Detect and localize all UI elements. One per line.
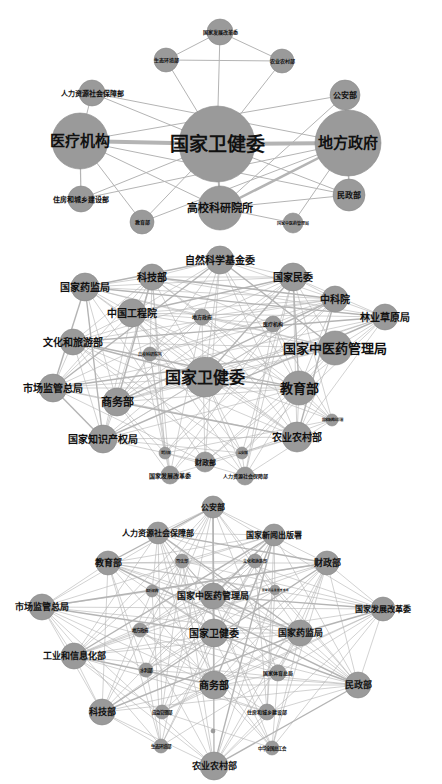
- node-cas[interactable]: 中科院: [320, 286, 350, 312]
- node-dot[interactable]: [211, 729, 215, 733]
- network-graph-1: 国家卫健委医疗机构地方政府高校科研院所人力资源社会保障部国家发展改革委生态环境部…: [0, 0, 442, 240]
- node-label: 国家卫健委: [189, 627, 240, 639]
- node-hrss[interactable]: 人力资源社会保障部: [122, 522, 194, 544]
- edge: [42, 607, 300, 633]
- node-mof[interactable]: 财政部: [194, 452, 216, 472]
- node-mee[interactable]: 生态环境部: [154, 48, 179, 72]
- node-label: 中国工程院: [107, 307, 157, 319]
- node-mps[interactable]: 公安部: [201, 496, 225, 518]
- node-label: 公安部: [333, 90, 357, 100]
- node-label: 地方政府: [192, 314, 212, 321]
- node-label: 高校科研院所: [187, 201, 253, 215]
- node-label: 商务部: [199, 679, 229, 691]
- node-label: 国家药监局: [60, 281, 110, 293]
- node-mps[interactable]: 公安部: [330, 80, 360, 110]
- node-moj[interactable]: 司法部: [175, 554, 189, 568]
- node-label: 国家新闻出版署: [322, 417, 344, 422]
- network-graph-2: 国家卫健委自然科学基金委科技部国家民委国家药监局中科院中国工程院林业草原局地方政…: [0, 235, 442, 490]
- node-label: 住房和城乡建设部: [53, 195, 109, 204]
- node-label: 教育部: [94, 557, 122, 568]
- node-label: 市场监管总局: [23, 382, 83, 394]
- node-circle[interactable]: [211, 729, 215, 733]
- node-nrta[interactable]: 国家新闻出版署: [322, 414, 344, 426]
- node-mps[interactable]: 公安部: [236, 447, 248, 459]
- node-cnipa[interactable]: 国家知识产权局: [68, 425, 138, 453]
- node-moa[interactable]: 农业农村部: [191, 752, 237, 780]
- network-svg: 公安部人力资源社会保障部国家新闻出版署教育部财政部司法部文化和旅游部医疗机构国家…: [0, 490, 442, 784]
- node-label: 生态环境部: [154, 57, 179, 64]
- node-mca[interactable]: 民政部: [333, 179, 365, 211]
- node-label: 民政部: [345, 679, 372, 690]
- node-hrss[interactable]: 人力资源社会保障部: [222, 467, 268, 485]
- node-most[interactable]: 科技部: [89, 699, 116, 725]
- network-svg: 国家卫健委医疗机构地方政府高校科研院所人力资源社会保障部国家发展改革委生态环境部…: [0, 0, 442, 240]
- node-label: 中华全国总工会: [258, 745, 287, 752]
- node-forest[interactable]: 林业草原局: [360, 304, 410, 330]
- edge: [102, 673, 278, 712]
- node-acftu[interactable]: 中华全国总工会: [258, 741, 287, 755]
- node-label: 教育部: [279, 381, 319, 396]
- node-mofcom[interactable]: 商务部: [199, 671, 229, 699]
- node-label: 文化和旅游部: [243, 558, 267, 564]
- node-mof[interactable]: 财政部: [313, 551, 341, 575]
- node-label: 科技部: [89, 706, 116, 717]
- node-label: 农业农村部: [271, 431, 322, 443]
- node-moe[interactable]: 教育部: [94, 551, 122, 575]
- node-label: 国家卫健委: [170, 133, 265, 155]
- node-label: 国家中医药管理局: [277, 220, 309, 226]
- node-label: 文化和旅游部: [43, 336, 103, 348]
- node-med[interactable]: 医疗机构: [263, 316, 283, 332]
- network-graph-3: 公安部人力资源社会保障部国家新闻出版署教育部财政部司法部文化和旅游部医疗机构国家…: [0, 490, 442, 784]
- node-label: 教育部: [134, 219, 150, 226]
- edge: [102, 712, 214, 766]
- node-label: 国家发展改革委: [149, 472, 191, 480]
- node-moe[interactable]: 教育部: [130, 210, 154, 234]
- node-label: 人力资源社会保障部: [122, 528, 194, 538]
- node-moe[interactable]: 教育部: [279, 371, 319, 405]
- edge: [166, 60, 282, 61]
- node-label: 国家发展改革委: [203, 29, 238, 36]
- node-label: 医疗机构: [263, 321, 283, 328]
- node-most[interactable]: 科技部: [137, 264, 167, 290]
- node-mwr[interactable]: 水利部: [139, 663, 153, 677]
- node-label: 国家知识产权局: [68, 433, 138, 445]
- node-label: 地方政府: [318, 134, 378, 152]
- edge: [102, 563, 108, 712]
- node-ndrc[interactable]: 国家发展改革委: [355, 597, 412, 621]
- node-ndrc[interactable]: 国家发展改革委: [203, 19, 238, 45]
- edge: [214, 535, 274, 685]
- node-label: 国家药监局: [278, 627, 323, 638]
- node-label: 国家体育总局: [263, 670, 293, 677]
- node-nmpa2[interactable]: 国家药品监督管理局: [262, 585, 289, 595]
- node-miit[interactable]: 工业和信息化部: [43, 643, 106, 669]
- node-nsfc[interactable]: 自然科学基金委: [185, 246, 256, 274]
- node-mofcom[interactable]: 商务部: [101, 388, 134, 416]
- node-label: 财政部: [194, 458, 216, 467]
- node-label: 商务部: [101, 395, 134, 409]
- node-uni[interactable]: 高校科研院所: [187, 186, 253, 230]
- node-label: 中科院: [320, 293, 350, 305]
- node-loc[interactable]: 地方政府: [315, 110, 381, 176]
- node-moa[interactable]: 农业农村部: [269, 49, 295, 73]
- node-mohurd[interactable]: 住房和城乡建设部: [53, 186, 109, 212]
- node-natcm[interactable]: 国家中医药管理局: [277, 213, 309, 233]
- node-moj[interactable]: 司法部: [159, 447, 171, 459]
- node-nhc[interactable]: 国家卫健委: [170, 106, 265, 182]
- node-ndrc[interactable]: 国家发展改革委: [149, 466, 191, 484]
- node-med[interactable]: 医疗机构: [50, 113, 110, 169]
- node-label: 国家药品监督管理局: [262, 588, 289, 592]
- node-label: 自然科学基金委: [185, 254, 256, 266]
- node-label: 司法部: [161, 450, 171, 455]
- node-mca[interactable]: 民政部: [345, 672, 372, 698]
- node-label: 市场监管总局: [15, 601, 69, 612]
- edge: [214, 535, 274, 766]
- node-natcm[interactable]: 国家中医药管理局: [283, 331, 387, 365]
- node-label: 人力资源社会保障部: [222, 473, 268, 480]
- node-label: 国家卫健委: [165, 368, 246, 387]
- node-label: 工业和信息化部: [43, 650, 106, 661]
- node-samr[interactable]: 市场监管总局: [15, 594, 69, 620]
- node-label: 人力资源社会保障部: [61, 89, 124, 98]
- node-label: 司法部: [176, 558, 188, 564]
- node-label: 科技部: [137, 271, 167, 283]
- node-label: 生态环境部: [151, 743, 172, 750]
